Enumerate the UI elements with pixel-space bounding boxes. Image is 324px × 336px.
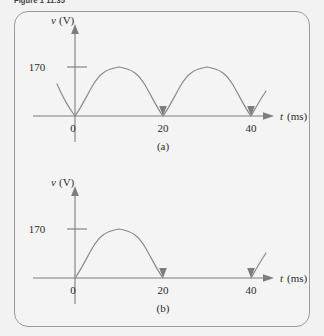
y-axis-label-var-a: v <box>51 14 56 26</box>
chart-panel-b: v (V) 170 0 20 40 t (ms) (b) <box>15 170 311 328</box>
panel-label-b: (b) <box>15 302 311 314</box>
x-tick-label-40-b: 40 <box>246 284 258 296</box>
figure-caption: Figure 1 11.35 <box>14 0 65 5</box>
figure-container: v (V) 170 0 20 40 t (ms) (a) <box>14 11 310 327</box>
x-tick-label-20-b: 20 <box>158 284 170 296</box>
panel-label-a: (a) <box>15 140 311 152</box>
x-tick-label-20-a: 20 <box>158 122 170 134</box>
x-tick-label-0-b: 0 <box>70 284 76 296</box>
x-tick-label-0-a: 0 <box>70 122 76 134</box>
x-axis-label-unit-a: (ms) <box>287 110 308 123</box>
x-axis-label-unit-b: (ms) <box>287 272 308 285</box>
y-tick-label-170-b: 170 <box>29 223 46 235</box>
y-axis-label-unit-a: (V) <box>59 14 75 27</box>
chart-panel-a: v (V) 170 0 20 40 t (ms) (a) <box>15 12 311 170</box>
y-axis-label-var-b: v <box>51 176 56 188</box>
x-axis-label-var-b: t <box>280 272 284 284</box>
y-axis-label-unit-b: (V) <box>59 176 75 189</box>
y-tick-label-170-a: 170 <box>29 61 46 73</box>
x-tick-label-40-a: 40 <box>246 122 258 134</box>
x-axis-label-var-a: t <box>280 110 284 122</box>
